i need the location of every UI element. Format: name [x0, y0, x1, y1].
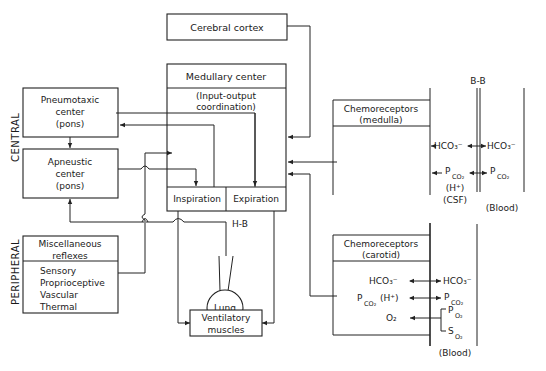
apneustic-center-box: Apneustic center (pons) — [23, 149, 118, 198]
bb-label: B-B — [470, 76, 485, 86]
carotid-hplus: (H⁺) — [380, 293, 399, 303]
blood-hco3-label: HCO₃⁻ — [487, 141, 516, 151]
chemo-carotid-line2: (carotid) — [362, 250, 400, 260]
csf-pco2-p: P — [445, 166, 451, 176]
misc-item-sensory: Sensory — [40, 266, 77, 276]
carotid-pco2-blood-p: P — [444, 292, 450, 302]
cerebral-cortex-label: Cerebral cortex — [190, 22, 264, 33]
chemo-medulla-line2: (medulla) — [359, 115, 402, 125]
pneumotaxic-line2: center — [56, 107, 85, 117]
medullary-center-subtitle-1: (Input-output — [196, 91, 256, 101]
apneustic-line1: Apneustic — [48, 157, 93, 167]
inspiration-label: Inspiration — [173, 194, 221, 204]
misc-title-1: Miscellaneous — [38, 239, 101, 249]
carotid-hco3-left: HCO₃⁻ — [369, 276, 398, 286]
carotid-blood-label: (Blood) — [439, 348, 471, 358]
respiratory-control-diagram: CENTRAL PERIPHERAL Cerebral cortex Medul… — [0, 0, 546, 371]
chemo-carotid-line1: Chemoreceptors — [344, 239, 419, 249]
misc-item-proprioceptive: Proprioceptive — [40, 278, 105, 288]
carotid-pco2-sub: CO₂ — [364, 300, 377, 308]
pneumotaxic-center-box: Pneumotaxic center (pons) — [23, 88, 118, 137]
ventilatory-line1: Ventilatory — [202, 313, 251, 323]
blood-pco2-sub: CO₂ — [497, 173, 510, 181]
ventilatory-line2: muscles — [208, 325, 245, 335]
carotid-o2: O₂ — [386, 313, 397, 323]
carotid-so2-sub: O₂ — [455, 333, 463, 341]
misc-title-2: reflexes — [52, 251, 88, 261]
blood-pco2-p: P — [490, 166, 496, 176]
peripheral-label: PERIPHERAL — [10, 239, 21, 305]
ventilatory-muscles-box: Ventilatory muscles — [190, 310, 262, 336]
misc-item-vascular: Vascular — [40, 290, 78, 300]
pneumotaxic-line3: (pons) — [56, 119, 85, 129]
central-label: CENTRAL — [10, 113, 21, 162]
carotid-pco2-p: P — [357, 293, 363, 303]
misc-item-thermal: Thermal — [39, 302, 77, 312]
carotid-so2-s: S — [448, 326, 454, 336]
carotid-po2-sub: O₂ — [455, 312, 463, 320]
chemo-medulla-line1: Chemoreceptors — [344, 104, 419, 114]
carotid-po2-p: P — [448, 305, 454, 315]
apneustic-line3: (pons) — [56, 181, 85, 191]
hering-breuer-label: H-B — [232, 219, 248, 229]
chemoreceptors-medulla-box: Chemoreceptors (medulla) — [333, 88, 430, 195]
medulla-blood-label: (Blood) — [486, 203, 518, 213]
misc-reflexes-box: Miscellaneous reflexes Sensory Proprioce… — [23, 236, 118, 313]
cerebral-cortex-box: Cerebral cortex — [167, 14, 287, 40]
csf-hco3-label: HCO₃⁻ — [434, 141, 463, 151]
carotid-hco3-right: HCO₃⁻ — [443, 276, 472, 286]
expiration-label: Expiration — [233, 194, 279, 204]
pneumotaxic-line1: Pneumotaxic — [41, 95, 99, 105]
medullary-center-title: Medullary center — [186, 71, 266, 82]
medullary-center-subtitle-2: coordination) — [196, 102, 256, 112]
medullary-center-box: Medullary center (Input-output coordinat… — [167, 64, 286, 211]
csf-pco2-sub: CO₂ — [452, 173, 465, 181]
csf-hplus-label: (H⁺) — [446, 183, 465, 193]
apneustic-line2: center — [56, 169, 85, 179]
csf-label: (CSF) — [443, 195, 467, 205]
